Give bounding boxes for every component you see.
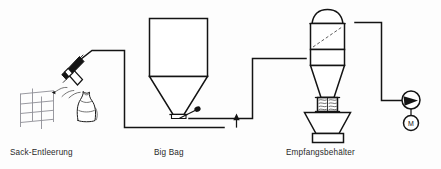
rotary-valve-icon (316, 98, 340, 112)
discharge-hopper (305, 113, 351, 134)
flow-arrow-icon (233, 114, 239, 127)
material-flow-icon (52, 87, 81, 97)
big-bag-station (150, 19, 208, 119)
pipe-receiver-to-blower (355, 23, 402, 101)
separator-cone (311, 66, 345, 98)
process-diagram: M Sack-Entleerung Big Bag Empfangsbehält… (0, 0, 441, 169)
sack-emptying-station (21, 55, 98, 129)
dome-cap-icon (312, 10, 343, 24)
sack-icon (77, 92, 97, 122)
big-bag-body (150, 19, 208, 77)
vessel-stand (313, 134, 344, 143)
receiving-vessel-station (305, 10, 351, 143)
caption-empfangsbehaelter: Empfangsbehälter (286, 148, 355, 157)
motor-label: M (408, 120, 414, 127)
blower-assembly: M (402, 91, 420, 131)
pipe-network (72, 23, 403, 128)
pallet-rack-icon (21, 89, 54, 130)
suction-lance-icon (62, 55, 84, 85)
vessel-mid-band (311, 50, 345, 66)
schematic-canvas: M Sack-Entleerung Big Bag Empfangsbehält… (0, 0, 441, 169)
caption-big-bag: Big Bag (154, 148, 184, 157)
caption-sack-entleerung: Sack-Entleerung (10, 148, 73, 157)
